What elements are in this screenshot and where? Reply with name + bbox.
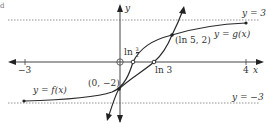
y-axis-up-arrow-icon xyxy=(117,4,123,12)
curve-g-up-arrow-icon xyxy=(179,6,186,14)
point-label-0-neg2: (0, −2) xyxy=(88,79,120,88)
x-intercept-label-ln3: ln 3 xyxy=(155,66,172,75)
point-ln5-2 xyxy=(170,33,174,37)
fraction-denominator: 2 xyxy=(136,53,139,58)
x-intercept-label-ln-3-2: ln 3 2 xyxy=(124,47,139,58)
asymptote-label-yneg3: y = −3 xyxy=(232,93,264,102)
point-label-ln5-2: (ln 5, 2) xyxy=(175,36,211,45)
curve-f-label: y = f(x) xyxy=(33,86,67,95)
curve-g-label: y = g(x) xyxy=(214,30,250,39)
function-graph-diagram: d y x −3 4 y = 3 y = −3 xyxy=(0,0,266,124)
y-axis-down-arrow-icon xyxy=(117,115,123,123)
fraction: 3 2 xyxy=(136,47,139,58)
point-ln3 xyxy=(152,60,156,64)
curve-g xyxy=(108,10,183,118)
curve-g-down-arrow-icon xyxy=(106,113,112,121)
tick-label-4: 4 xyxy=(243,66,249,75)
x-axis-left-arrow-icon xyxy=(8,59,16,65)
ln-prefix: ln xyxy=(124,47,133,57)
tick-label-neg3: −3 xyxy=(18,66,31,75)
curve-g-right-endpoint xyxy=(244,21,247,24)
point-ln-3-2 xyxy=(131,60,135,64)
graph-canvas xyxy=(0,0,266,124)
asymptote-label-y3: y = 3 xyxy=(242,9,266,18)
x-axis-label: x xyxy=(253,66,258,75)
curve-f-left-endpoint xyxy=(22,99,25,102)
y-axis-label: y xyxy=(125,4,130,13)
